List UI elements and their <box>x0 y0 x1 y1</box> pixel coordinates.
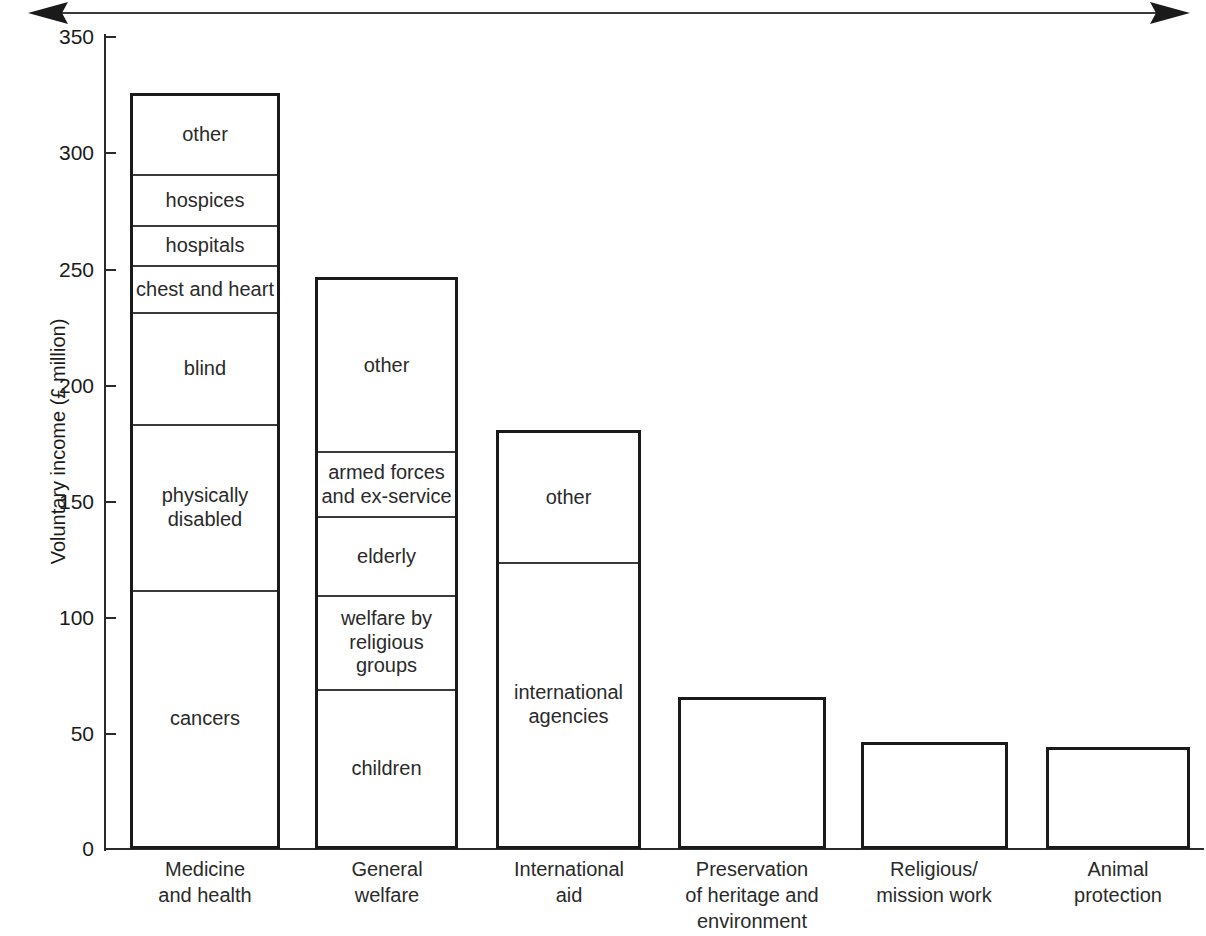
x-label-line1: Animal <box>1036 856 1200 882</box>
y-tick-label-100: 100 <box>30 606 94 630</box>
segment-welfare-by-religious-groups[interactable]: welfare by religious groups <box>318 597 455 691</box>
x-label-general-welfare: General welfare <box>307 856 467 908</box>
y-tick-200 <box>104 385 116 387</box>
y-tick-label-200: 200 <box>30 374 94 398</box>
segment-other[interactable]: other <box>133 96 277 176</box>
x-label-religious-mission-work: Religious/ mission work <box>848 856 1020 908</box>
x-label-preservation-of-heritage-and-environment: Preservation of heritage and environment <box>662 856 842 934</box>
x-label-animal-protection: Animal protection <box>1036 856 1200 908</box>
x-label-line3: environment <box>662 908 842 934</box>
bar-medicine-and-health[interactable]: other hospices hospitals chest and heart… <box>130 93 280 849</box>
segment-blind[interactable]: blind <box>133 314 277 426</box>
bar-general-welfare[interactable]: other armed forces and ex-service elderl… <box>315 277 458 849</box>
segment-label-line1: international <box>514 681 623 705</box>
segment-other[interactable]: other <box>318 280 455 453</box>
segment-elderly[interactable]: elderly <box>318 518 455 596</box>
y-axis-title: Voluntary income (£ million) <box>47 302 70 582</box>
x-label-line1: General <box>307 856 467 882</box>
x-label-line2: protection <box>1036 882 1200 908</box>
y-tick-50 <box>104 733 116 735</box>
x-label-line2: and health <box>125 882 285 908</box>
segment-label-line1: physically <box>162 484 249 508</box>
y-tick-100 <box>104 617 116 619</box>
segment-armed-forces-and-ex-service[interactable]: armed forces and ex-service <box>318 453 455 518</box>
top-double-arrow-icon <box>0 0 1206 30</box>
segment-label-line2: religious <box>349 631 423 655</box>
x-label-line2: aid <box>488 882 650 908</box>
y-tick-label-50: 50 <box>30 722 94 746</box>
segment-children[interactable]: children <box>318 691 455 846</box>
x-label-line1: Medicine <box>125 856 285 882</box>
segment-label-line2: agencies <box>528 705 608 729</box>
segment-label-line2: disabled <box>168 508 243 532</box>
segment-international-agencies[interactable]: international agencies <box>499 564 638 846</box>
y-tick-250 <box>104 269 116 271</box>
y-axis-line <box>104 34 106 851</box>
y-tick-150 <box>104 501 116 503</box>
segment-hospices[interactable]: hospices <box>133 176 277 227</box>
bar-international-aid[interactable]: other international agencies <box>496 430 641 849</box>
bar-religious-mission-work[interactable] <box>861 742 1008 849</box>
segment-hospitals[interactable]: hospitals <box>133 227 277 267</box>
x-label-line2: welfare <box>307 882 467 908</box>
x-label-medicine-and-health: Medicine and health <box>125 856 285 908</box>
x-label-line1: Preservation <box>662 856 842 882</box>
segment-physically-disabled[interactable]: physically disabled <box>133 426 277 592</box>
bar-animal-protection[interactable] <box>1046 747 1190 849</box>
y-tick-300 <box>104 152 116 154</box>
segment-label-line1: armed forces <box>328 461 445 485</box>
x-label-line2: mission work <box>848 882 1020 908</box>
x-label-line1: Religious/ <box>848 856 1020 882</box>
y-tick-350 <box>104 36 116 38</box>
y-tick-label-350: 350 <box>30 25 94 49</box>
segment-label-line3: groups <box>356 654 417 678</box>
segment-chest-and-heart[interactable]: chest and heart <box>133 267 277 314</box>
chart-figure: Voluntary income (£ million) 350 300 250… <box>0 0 1206 936</box>
bar-preservation-of-heritage-and-environment[interactable] <box>678 697 826 849</box>
y-tick-label-300: 300 <box>30 141 94 165</box>
x-label-line1: International <box>488 856 650 882</box>
segment-label-line2: and ex-service <box>321 485 451 509</box>
segment-label-line1: welfare by <box>341 607 432 631</box>
x-label-line2: of heritage and <box>662 882 842 908</box>
y-tick-label-150: 150 <box>30 490 94 514</box>
y-tick-label-250: 250 <box>30 258 94 282</box>
segment-other[interactable]: other <box>499 433 638 564</box>
segment-cancers[interactable]: cancers <box>133 592 277 846</box>
y-tick-label-0: 0 <box>30 837 94 861</box>
x-label-international-aid: International aid <box>488 856 650 908</box>
